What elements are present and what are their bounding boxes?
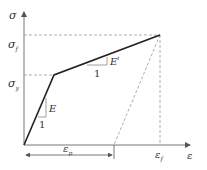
unloading-line: [114, 35, 160, 145]
x-axis-label: ε: [187, 150, 192, 161]
y-axis-label: σ: [9, 9, 17, 22]
modulus-e-run: 1: [39, 119, 45, 130]
epsilon-f-label: εf: [155, 149, 164, 163]
stress-strain-diagram: σ ε σf σy εf εp E 1 Et 1: [0, 0, 207, 170]
sigma-f-label: σf: [8, 38, 20, 53]
modulus-e-label: E: [48, 103, 57, 114]
modulus-et-label: Et: [109, 55, 120, 67]
modulus-et-run: 1: [94, 68, 100, 79]
slope-triangle-e: [38, 98, 46, 117]
sigma-y-label: σy: [8, 77, 20, 92]
